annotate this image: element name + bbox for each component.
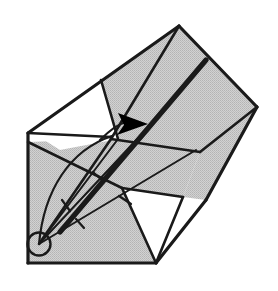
fold-diagram (0, 0, 278, 291)
figure-root (0, 0, 278, 291)
